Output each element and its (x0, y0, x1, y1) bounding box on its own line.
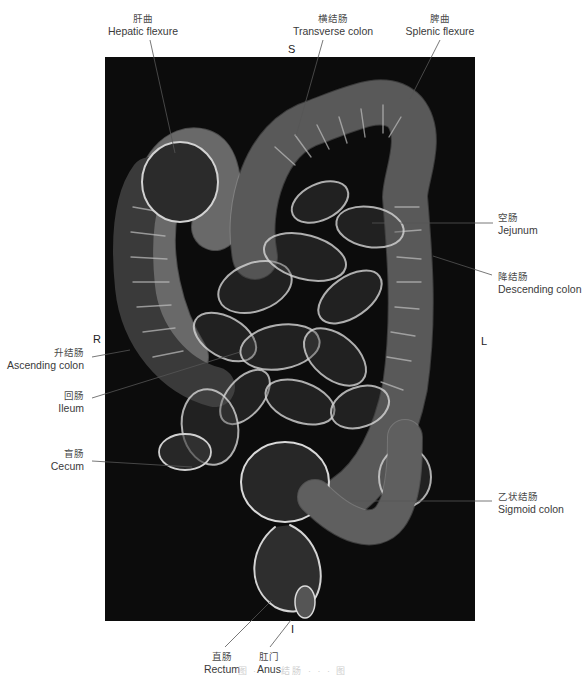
orientation-superior: S (288, 43, 295, 55)
label-en: Cecum (51, 460, 84, 473)
label-zh: 回肠 (58, 389, 84, 402)
label-en: Jejunum (498, 224, 538, 237)
label-transverse-colon: 横结肠 Transverse colon (293, 12, 373, 38)
intestine-image-panel (105, 57, 475, 621)
intestine-illustration (105, 57, 475, 621)
label-zh: 脾曲 (406, 12, 475, 25)
orientation-right: R (93, 333, 101, 345)
label-descending-colon: 降结肠 Descending colon (498, 270, 581, 296)
label-en: Splenic flexure (406, 25, 475, 38)
label-en: Sigmoid colon (498, 503, 564, 516)
label-en: Descending colon (498, 283, 581, 296)
label-ascending-colon: 升结肠 Ascending colon (7, 346, 84, 372)
label-zh: 升结肠 (7, 346, 84, 359)
label-splenic-flexure: 脾曲 Splenic flexure (406, 12, 475, 38)
label-zh: 肛门 (257, 650, 281, 663)
label-ileum: 回肠 Ileum (58, 389, 84, 415)
label-en: Hepatic flexure (108, 25, 178, 38)
label-cecum: 盲肠 Cecum (51, 447, 84, 473)
label-en: Ileum (58, 402, 84, 415)
orientation-inferior: I (291, 623, 294, 635)
label-zh: 盲肠 (51, 447, 84, 460)
orientation-left: L (481, 335, 487, 347)
label-zh: 空肠 (498, 211, 538, 224)
label-zh: 乙状结肠 (498, 490, 564, 503)
label-zh: 横结肠 (293, 12, 373, 25)
label-en: Ascending colon (7, 359, 84, 372)
label-zh: 直肠 (204, 650, 240, 663)
label-hepatic-flexure: 肝曲 Hepatic flexure (108, 12, 178, 38)
label-zh: 肝曲 (108, 12, 178, 25)
label-jejunum: 空肠 Jejunum (498, 211, 538, 237)
label-zh: 降结肠 (498, 270, 581, 283)
leader-anus (270, 620, 291, 647)
figure-caption: 图 · · · 结肠 · · · 图 (0, 664, 585, 677)
label-sigmoid-colon: 乙状结肠 Sigmoid colon (498, 490, 564, 516)
label-en: Transverse colon (293, 25, 373, 38)
